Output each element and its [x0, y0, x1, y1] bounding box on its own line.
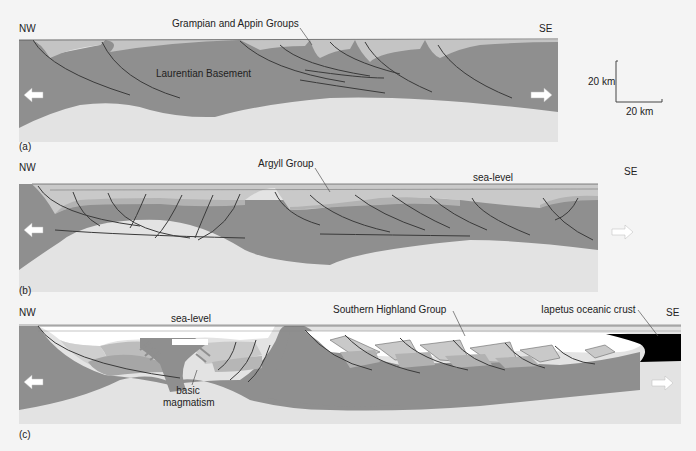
- direction-nw-c: NW: [19, 307, 36, 319]
- label-iapetus-oceanic-crust: Iapetus oceanic crust: [541, 304, 636, 316]
- panel-label-c: (c): [19, 429, 31, 441]
- panel-label-b: (b): [19, 285, 31, 297]
- panel-b-section: [19, 184, 598, 292]
- scale-horizontal-label: 20 km: [626, 106, 653, 118]
- panel-c-section: [19, 324, 681, 424]
- direction-nw-b: NW: [19, 162, 36, 174]
- direction-nw-a: NW: [19, 23, 36, 35]
- panel-label-a: (a): [19, 141, 31, 153]
- direction-se-a: SE: [539, 23, 552, 35]
- scale-bar: [616, 61, 662, 102]
- label-grampian-appin: Grampian and Appin Groups: [172, 18, 299, 30]
- scale-vertical-label: 20 km: [588, 76, 615, 88]
- label-sea-level-c: sea-level: [171, 313, 211, 325]
- panel-a-section: [19, 39, 558, 142]
- basic-magmatism-text: basic magmatism: [163, 385, 213, 409]
- label-argyll-group: Argyll Group: [258, 158, 314, 170]
- label-southern-highland-group: Southern Highland Group: [333, 304, 446, 316]
- cross-section-diagram: [0, 0, 696, 451]
- label-sea-level-b: sea-level: [473, 172, 513, 184]
- direction-se-b: SE: [624, 166, 637, 178]
- direction-se-c: SE: [666, 307, 679, 319]
- label-laurentian-basement: Laurentian Basement: [156, 68, 251, 80]
